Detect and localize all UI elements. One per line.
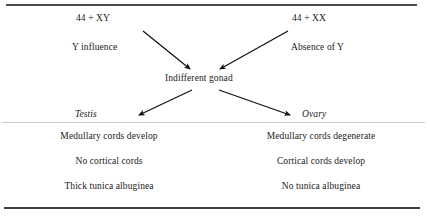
arrow-xy-to-gonad bbox=[143, 31, 190, 69]
label-y-influence: Y influence bbox=[72, 41, 117, 53]
outcome-item: No cortical cords bbox=[75, 155, 142, 167]
outcome-item: Medullary cords develop bbox=[60, 130, 157, 142]
outcome-list-ovary: Medullary cords degenerate Cortical cord… bbox=[218, 130, 424, 192]
arrow-gonad-to-testis bbox=[139, 90, 192, 115]
arrow-xx-to-gonad bbox=[220, 31, 288, 69]
outcome-item: Thick tunica albuginea bbox=[64, 180, 153, 192]
label-ovary: Ovary bbox=[302, 108, 326, 120]
outcome-item: Cortical cords develop bbox=[277, 155, 365, 167]
gonad-differentiation-figure: 44 + XY 44 + XX Y influence Absence of Y… bbox=[0, 0, 429, 221]
label-absence-of-y: Absence of Y bbox=[291, 41, 344, 53]
outcome-item: No tunica albuginea bbox=[282, 180, 360, 192]
label-testis: Testis bbox=[75, 108, 97, 120]
outcome-item: Medullary cords degenerate bbox=[267, 130, 376, 142]
label-karyotype-male: 44 + XY bbox=[76, 12, 110, 24]
label-karyotype-female: 44 + XX bbox=[292, 12, 326, 24]
label-indifferent-gonad: Indifferent gonad bbox=[165, 72, 233, 84]
arrow-gonad-to-ovary bbox=[219, 90, 290, 115]
outcome-list-testis: Medullary cords develop No cortical cord… bbox=[6, 130, 212, 192]
